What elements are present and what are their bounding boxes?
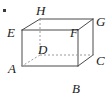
vertex-label-g: G (96, 15, 105, 28)
vertex-label-a: A (8, 62, 16, 75)
corner-dot (3, 9, 6, 12)
vertex-label-c: C (96, 54, 105, 67)
hidden-edge-group (22, 19, 93, 66)
edge-EH (22, 19, 40, 30)
vertex-label-h: H (36, 4, 45, 17)
vertex-label-b: B (72, 82, 80, 95)
edge-FG (78, 19, 93, 30)
edge-BC (78, 55, 93, 66)
vertex-label-e: E (7, 26, 15, 39)
corner-mark-group (3, 9, 6, 12)
cuboid-figure: ABCDEFGH (0, 0, 108, 102)
vertex-label-f: F (70, 26, 78, 39)
vertex-label-d: D (38, 43, 47, 56)
cuboid-wireframe (0, 0, 108, 102)
